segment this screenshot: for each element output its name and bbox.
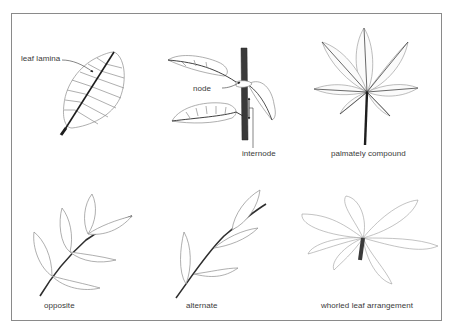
simple-leaf-illustration: [61, 52, 124, 135]
whorled-leaf-illustration: [302, 196, 438, 284]
label-node: node: [193, 84, 211, 94]
leaf-diagram-artwork: [0, 0, 453, 335]
label-opposite: opposite: [44, 301, 75, 311]
opposite-leaf-illustration: [34, 194, 132, 296]
label-palmately-compound: palmately compound: [331, 149, 406, 159]
label-internode: internode: [242, 149, 276, 159]
alternate-leaf-illustration: [176, 190, 266, 298]
label-leaf-lamina: leaf lamina: [21, 54, 60, 64]
stem-node-illustration: [168, 48, 275, 140]
internode-span-marker: [249, 98, 253, 148]
palmate-leaf-illustration: [314, 28, 418, 145]
label-alternate: alternate: [186, 301, 218, 311]
label-whorled-leaf-arrangement: whorled leaf arrangement: [321, 301, 413, 311]
